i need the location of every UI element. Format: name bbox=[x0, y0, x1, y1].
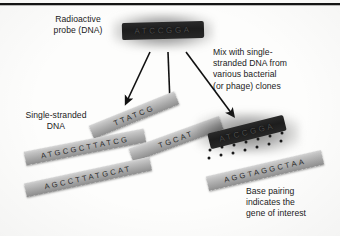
dna-strand: AGCCTTATGCAT bbox=[24, 157, 152, 197]
single-stranded-dna-label: Single-stranded DNA bbox=[16, 110, 96, 132]
top-rule bbox=[0, 3, 340, 5]
radioactive-probe-sequence: ATCCGGA bbox=[134, 25, 191, 36]
hybrid-strand-sequence: AGGTAGGCTAA bbox=[206, 153, 323, 188]
arrow-left bbox=[127, 52, 150, 101]
hybrid-probe-sequence: ATCCGGA bbox=[218, 121, 276, 144]
hybrid-dna-strand: AGGTAGGCTAA bbox=[206, 150, 324, 191]
radioactive-probe-bar: ATCCGGA bbox=[122, 21, 204, 40]
base-pairing-label: Base pairing indicates the gene of inter… bbox=[246, 186, 340, 220]
mix-instruction-label: Mix with single- stranded DNA from vario… bbox=[213, 47, 337, 92]
hybridization-figure: Radioactive probe (DNA) Mix with single-… bbox=[0, 0, 340, 236]
radioactive-probe-label: Radioactive probe (DNA) bbox=[34, 14, 122, 36]
strand-sequence: AGCCTTATGCAT bbox=[24, 159, 151, 194]
dna-strand: ATGCGCTTATCG bbox=[24, 128, 146, 165]
